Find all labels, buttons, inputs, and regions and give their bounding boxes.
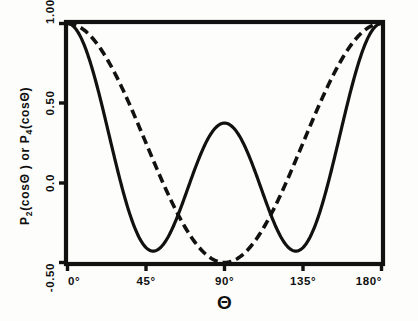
chart-figure: 1.00 0.50 0.0 -0.50 P2(cosΘ ) or P4(cosΘ… (0, 0, 418, 321)
x-tick-label-90: 90° (215, 275, 234, 287)
y-tick-label-0.0: 0.0 (44, 174, 56, 192)
x-tick-label-0: 0° (68, 275, 80, 287)
x-tick-label-135: 135° (290, 275, 316, 287)
y-tick-label--0.50: -0.50 (44, 263, 56, 292)
x-tick-label-45: 45° (136, 275, 155, 287)
y-axis-title: P2(cosΘ ) or P4(cosΘ) (18, 87, 34, 225)
figure-background (0, 0, 418, 321)
y-tick-label-0.50: 0.50 (44, 91, 56, 116)
x-axis-title: Θ (217, 292, 232, 313)
x-tick-label-180: 180° (356, 275, 382, 287)
y-tick-label-1.00: 1.00 (44, 0, 56, 24)
